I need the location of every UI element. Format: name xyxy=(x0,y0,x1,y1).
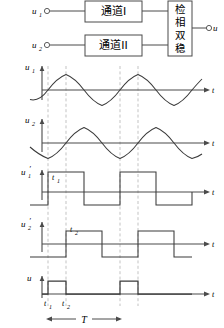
period-arrow-left-icon xyxy=(46,317,52,322)
u2p-t-arrow-icon xyxy=(204,241,210,246)
block-phase-bistable-char-4: 稳 xyxy=(175,42,186,54)
uout-label: u xyxy=(27,273,32,283)
tick-t2-sub: 2 xyxy=(67,304,70,310)
u1-axis-label: t xyxy=(212,86,215,95)
output-terminal-icon xyxy=(206,25,211,30)
tick-t2-label: t xyxy=(62,299,65,308)
u1p-square-curve xyxy=(30,172,192,205)
waveform-u1-prime: t u 1 ′ t 1 xyxy=(21,165,215,205)
u1-label: u xyxy=(25,62,30,72)
u2-sub: 2 xyxy=(32,121,35,127)
uout-pulse-curve xyxy=(42,281,192,294)
u2-label: u xyxy=(25,115,30,125)
u2-y-arrow-icon xyxy=(40,119,45,124)
u2-axis-label: t xyxy=(212,139,215,148)
guide-lines xyxy=(48,66,138,306)
input-2-label: u xyxy=(32,40,37,50)
u1p-y-arrow-icon xyxy=(40,170,45,175)
uout-y-arrow-icon xyxy=(40,276,45,281)
input-1-terminal-icon xyxy=(44,8,49,13)
u2p-label: u xyxy=(21,219,26,229)
u1-t-arrow-icon xyxy=(204,87,210,92)
u1p-label: u xyxy=(21,167,26,177)
uout-axis-label: t xyxy=(212,290,215,299)
u2p-prime: ′ xyxy=(29,217,31,226)
input-1-label: u xyxy=(32,6,37,16)
block-phase-bistable-char-3: 双 xyxy=(175,29,186,41)
block-channel-2-label: 通道II xyxy=(99,38,128,52)
block-channel-1-label: 通道I xyxy=(101,4,126,18)
block-phase-bistable-char-1: 检 xyxy=(175,3,186,15)
u1p-t-arrow-icon xyxy=(204,189,210,194)
output-label: u xyxy=(213,23,218,33)
u1-y-arrow-icon xyxy=(40,66,45,71)
u1p-marker-label: t xyxy=(52,173,55,182)
figure-root: u 1 通道I u 2 通道II 检 相 双 稳 u xyxy=(0,0,224,328)
block-diagram: u 1 通道I u 2 通道II 检 相 双 稳 u xyxy=(32,1,218,56)
u2p-y-arrow-icon xyxy=(40,222,45,227)
tick-t1-sub: 1 xyxy=(49,304,52,310)
input-1-sub: 1 xyxy=(39,12,42,18)
uout-t-arrow-icon xyxy=(204,291,210,296)
period-measure: T xyxy=(46,312,122,326)
u1p-prime: ′ xyxy=(29,165,31,174)
waveform-u-out: t u xyxy=(27,273,215,299)
u1-sub: 1 xyxy=(32,68,35,74)
u2-t-arrow-icon xyxy=(204,140,210,145)
figure-canvas: u 1 通道I u 2 通道II 检 相 双 稳 u xyxy=(0,0,224,328)
input-2-terminal-icon xyxy=(44,42,49,47)
u1p-axis-label: t xyxy=(212,188,215,197)
u2p-marker-label: t xyxy=(70,225,73,234)
input-2-sub: 2 xyxy=(39,46,42,52)
u1p-marker-sub: 1 xyxy=(57,178,60,184)
block-phase-bistable-char-2: 相 xyxy=(175,16,185,28)
waveform-u2-prime: t u 2 ′ t 2 xyxy=(21,217,215,257)
tick-t1-label: t xyxy=(44,299,47,308)
period-arrow-right-icon xyxy=(116,317,122,322)
u2p-axis-label: t xyxy=(212,240,215,249)
